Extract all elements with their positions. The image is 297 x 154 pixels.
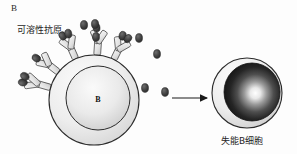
antigen-dot	[80, 21, 87, 30]
antigen-dot	[91, 20, 98, 29]
b-cell-letter: B	[95, 95, 101, 104]
figure-canvas: B 可溶性抗原 失能B细胞	[0, 0, 297, 154]
bcr-receptor-1	[14, 67, 54, 98]
antigen-dot	[136, 34, 143, 43]
anergic-b-cell	[212, 58, 282, 128]
antigen-dot	[142, 84, 149, 93]
antigen-dot	[154, 50, 161, 59]
illustration-svg: B	[0, 0, 297, 154]
antigen-dot	[162, 88, 169, 97]
antigen-dot	[93, 33, 100, 42]
b-cell: B	[49, 55, 139, 145]
